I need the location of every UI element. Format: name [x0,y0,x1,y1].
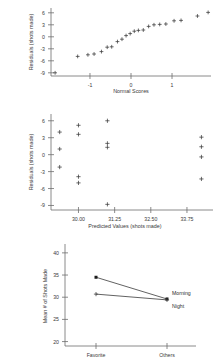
residual-plot-svg: 630-3-6-9 Residuals (shots made) 30.0031… [0,100,219,230]
resid-x-tick-label: 30.00 [72,216,85,222]
qq-data-points [53,11,210,75]
qq-y-tick-label: -3 [40,46,45,52]
resid-x-tick-group: 30.0031.2532.5033.75 [72,207,194,222]
qq-y-tick-label: 3 [42,22,45,28]
inter-y-tick-label: 30 [53,294,59,300]
qq-y-tick-label: 0 [42,34,45,40]
qq-x-axis: -101 Normal Scores [51,73,211,94]
inter-x-category-label: Favorite [87,352,106,358]
interaction-plot-figure: 4035302520 Mean # of Shots Made Favorite… [0,230,219,359]
resid-y-axis: 630-3-6-9 Residuals (shots made) [28,114,54,210]
resid-y-axis-title: Residuals (shots made) [28,133,34,190]
qq-y-tick-label: 6 [42,10,45,16]
qq-x-axis-title: Normal Scores [113,88,149,94]
resid-x-tick-label: 33.75 [180,216,193,222]
inter-y-tick-label: 25 [53,316,59,322]
qq-x-tick-group: -101 [88,73,174,88]
inter-y-tick-label: 20 [53,339,59,345]
inter-legend-group: MorningNight [172,290,191,309]
inter-y-tick-label: 40 [53,250,59,256]
resid-x-tick-label: 31.25 [108,216,121,222]
qq-y-tick-group: 630-3-6-9 [40,10,54,76]
qq-y-axis-title: Residuals (shots made) [28,13,34,70]
inter-x-axis: FavoriteOthers [65,343,196,358]
inter-y-tick-group: 4035302520 [53,250,68,345]
qq-y-tick-label: -6 [40,58,45,64]
inter-series-name-night: Night [172,303,185,309]
resid-data-points [58,119,204,207]
inter-y-tick-label: 35 [53,272,59,278]
resid-y-tick-group: 630-3-6-9 [40,118,54,209]
residuals-vs-fitted-figure: 630-3-6-9 Residuals (shots made) 30.0031… [0,100,219,230]
interaction-plot-svg: 4035302520 Mean # of Shots Made Favorite… [0,230,219,359]
qq-x-tick-label: 1 [171,82,174,88]
resid-x-axis-title: Predicted Values (shots made) [88,223,162,229]
resid-y-tick-label: -3 [40,169,45,175]
inter-series-name-morning: Morning [172,290,191,296]
normal-probability-plot-figure: 630-3-6-9 Residuals (shots made) -101 No… [0,0,219,100]
resid-y-tick-label: 6 [42,118,45,124]
inter-point-marker [95,276,98,279]
inter-series-line [96,294,167,300]
inter-series-line [96,277,167,299]
qq-x-tick-label: -1 [88,82,93,88]
inter-y-axis: 4035302520 Mean # of Shots Made [42,244,68,346]
qq-y-axis: 630-3-6-9 Residuals (shots made) [28,8,54,76]
resid-y-tick-label: 0 [42,152,45,158]
resid-x-tick-label: 32.50 [144,216,157,222]
qq-plot-svg: 630-3-6-9 Residuals (shots made) -101 No… [0,0,219,100]
resid-y-tick-label: 3 [42,135,45,141]
resid-y-tick-label: -9 [40,202,45,208]
inter-y-axis-title: Mean # of Shots Made [42,269,48,323]
inter-x-category-label: Others [159,352,175,358]
qq-y-tick-label: -9 [40,70,45,76]
inter-series-group [94,276,169,302]
resid-x-axis: 30.0031.2532.5033.75 Predicted Values (s… [51,207,213,229]
inter-x-tick-group: FavoriteOthers [87,343,176,358]
resid-y-tick-label: -6 [40,186,45,192]
